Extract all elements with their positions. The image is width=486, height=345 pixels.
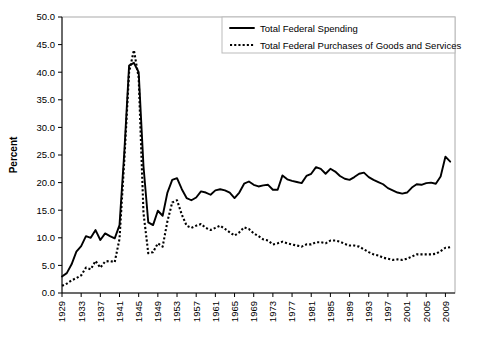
plot-frame	[62, 17, 455, 293]
y-tick-label: 5.0	[42, 260, 55, 271]
x-tick-label: 1965	[229, 301, 240, 322]
x-tick-label: 1949	[152, 301, 163, 322]
y-tick-label: 25.0	[37, 149, 56, 160]
x-tick-label: 1985	[325, 301, 336, 322]
y-tick-label: 0.0	[42, 287, 55, 298]
y-tick-label: 40.0	[37, 67, 56, 78]
figure-container: 0.05.010.015.020.025.030.035.040.045.050…	[0, 0, 486, 345]
y-axis-ticks: 0.05.010.015.020.025.030.035.040.045.050…	[37, 11, 63, 298]
x-tick-label: 1941	[114, 301, 125, 322]
data-series-group	[62, 50, 450, 286]
y-tick-label: 45.0	[37, 39, 56, 50]
legend-label: Total Federal Purchases of Goods and Ser…	[260, 40, 461, 51]
x-tick-label: 1981	[306, 301, 317, 322]
x-tick-label: 1961	[210, 301, 221, 322]
legend-label: Total Federal Spending	[260, 23, 358, 34]
y-tick-label: 10.0	[37, 232, 56, 243]
figure-caption	[30, 337, 460, 345]
y-tick-label: 15.0	[37, 205, 56, 216]
x-axis-ticks: 1929193319371941194519491953195719611965…	[56, 293, 450, 322]
x-tick-label: 1969	[248, 301, 259, 322]
y-tick-label: 20.0	[37, 177, 56, 188]
x-tick-label: 1929	[56, 301, 67, 322]
x-tick-label: 1993	[363, 301, 374, 322]
x-tick-label: 1953	[171, 301, 182, 322]
x-tick-label: 1933	[76, 301, 87, 322]
x-tick-label: 1973	[267, 301, 278, 322]
chart-legend: Total Federal SpendingTotal Federal Purc…	[222, 17, 461, 53]
y-axis-title-text: Percent	[8, 136, 19, 173]
x-tick-label: 1945	[133, 301, 144, 322]
data-series-line	[62, 63, 450, 277]
y-tick-label: 35.0	[37, 94, 56, 105]
x-tick-label: 2005	[421, 301, 432, 322]
x-tick-label: 1937	[95, 301, 106, 322]
x-tick-label: 1989	[344, 301, 355, 322]
y-tick-label: 50.0	[37, 11, 56, 22]
x-tick-label: 1977	[286, 301, 297, 322]
line-chart: 0.05.010.015.020.025.030.035.040.045.050…	[0, 0, 486, 345]
y-tick-label: 30.0	[37, 122, 56, 133]
x-tick-label: 2009	[440, 301, 451, 322]
x-tick-label: 2001	[401, 301, 412, 322]
x-tick-label: 1997	[382, 301, 393, 322]
y-axis-title: Percent	[8, 136, 19, 173]
data-series-line	[62, 50, 450, 286]
x-tick-label: 1957	[191, 301, 202, 322]
